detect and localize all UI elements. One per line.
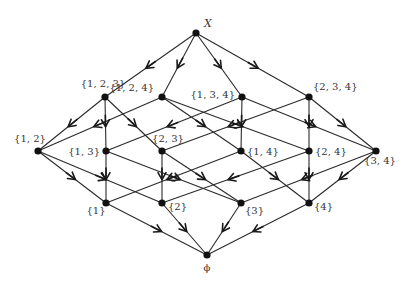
node-123	[101, 93, 108, 100]
node-234	[305, 93, 312, 100]
node-label-234: {2, 3, 4}	[313, 81, 358, 92]
node-label-2: {2}	[168, 201, 187, 212]
node-label-X: X	[203, 17, 213, 30]
node-label-34: {3, 4}	[364, 155, 396, 166]
node-X	[192, 29, 199, 36]
node-phi	[203, 251, 210, 258]
node-2	[158, 199, 165, 206]
node-label-124: {1, 2, 4}	[109, 82, 154, 93]
node-3	[237, 199, 244, 206]
node-4	[305, 199, 312, 206]
node-label-24: {2, 4}	[315, 146, 347, 157]
labels-layer: X{1, 2, 3}{1, 2, 4}{1, 3, 4}{2, 3, 4}{1,…	[14, 17, 396, 273]
node-label-23: {2, 3}	[152, 133, 184, 144]
edges-layer	[38, 33, 376, 255]
node-label-phi: ϕ	[204, 262, 211, 273]
node-label-13: {1, 3}	[68, 146, 100, 157]
node-24	[305, 147, 312, 154]
node-14	[237, 147, 244, 154]
nodes-layer	[34, 29, 379, 258]
node-34	[372, 147, 379, 154]
node-12	[34, 147, 41, 154]
node-134	[238, 93, 245, 100]
node-13	[102, 147, 109, 154]
node-124	[158, 93, 165, 100]
node-23	[158, 147, 165, 154]
node-label-12: {1, 2}	[14, 133, 46, 144]
node-label-3: {3}	[245, 205, 264, 216]
node-label-134: {1, 3, 4}	[190, 89, 235, 100]
node-label-14: {1, 4}	[247, 146, 279, 157]
node-label-1: {1}	[86, 205, 105, 216]
node-label-4: {4}	[314, 201, 333, 212]
hasse-diagram: X{1, 2, 3}{1, 2, 4}{1, 3, 4}{2, 3, 4}{1,…	[0, 0, 408, 287]
